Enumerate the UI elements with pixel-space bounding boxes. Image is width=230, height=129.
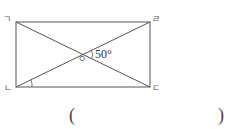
intersection-label: ㅇ: [78, 55, 86, 64]
answer-open-paren: (: [69, 106, 75, 124]
answer-close-paren: ): [218, 106, 224, 124]
angle-arc-50: [91, 50, 93, 58]
vertex-label-top-right: ㄹ: [152, 15, 160, 24]
angle-arc-bottom-left: [31, 80, 32, 87]
vertex-label-bottom-left: ㄴ: [4, 84, 12, 93]
angle-label: 50°: [95, 48, 112, 60]
answer-blank[interactable]: [80, 106, 210, 124]
vertex-label-bottom-right: ㄷ: [152, 84, 160, 93]
vertex-label-top-left: ㄱ: [3, 15, 11, 24]
